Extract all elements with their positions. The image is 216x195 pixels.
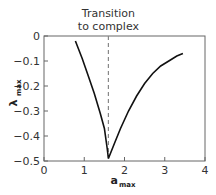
x-tick-label: 3 [161, 164, 168, 177]
x-tick-label: 0 [41, 164, 48, 177]
y-tick-label: 0 [33, 30, 40, 43]
x-tick-labels: 01234 [41, 164, 209, 177]
x-tick-label: 4 [202, 164, 209, 177]
y-axis-label-sub: max [15, 79, 23, 96]
y-axis-label: λ [7, 99, 20, 106]
lambda-curve [75, 41, 182, 159]
y-tick-label: −0.5 [13, 155, 40, 168]
x-tick-label: 2 [121, 164, 128, 177]
annotation-line2: to complex [78, 20, 140, 33]
x-axis-label-sub: max [119, 181, 136, 189]
chart: 0−0.1−0.2−0.3−0.4−0.5 01234 Transition t… [0, 0, 216, 195]
annotation-line1: Transition [81, 7, 135, 20]
y-tick-labels: 0−0.1−0.2−0.3−0.4−0.5 [13, 30, 40, 168]
y-tick-label: −0.4 [13, 130, 40, 143]
x-axis-label: a [111, 174, 118, 187]
x-tick-label: 1 [81, 164, 88, 177]
y-tick-label: −0.1 [13, 55, 40, 68]
y-axis-label-group: λ max [7, 79, 23, 107]
